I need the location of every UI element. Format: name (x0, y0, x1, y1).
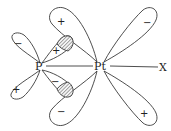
pt-x-bond (110, 66, 158, 67)
sign-pt-lower-left: − (57, 106, 65, 117)
sign-p-upper-left: − (14, 38, 22, 49)
sign-pt-lower-right: + (140, 108, 148, 119)
sign-p-lower-left: + (12, 84, 20, 95)
atom-label-pt: Pt (94, 60, 106, 73)
sign-pt-upper-right: − (143, 17, 151, 28)
pt-lobe-upper-right (104, 8, 157, 62)
overlap-region-lower (57, 82, 73, 97)
sign-pt-upper-left: + (57, 16, 65, 27)
atom-label-x: X (159, 61, 167, 74)
pt-lobe-lower-right (104, 71, 157, 125)
atom-label-p: P (35, 60, 43, 73)
orbital-diagram: P Pt X − + + − + − − + (0, 0, 171, 131)
sign-p-lower-right: − (51, 76, 59, 87)
sign-p-upper-right: + (52, 45, 60, 56)
